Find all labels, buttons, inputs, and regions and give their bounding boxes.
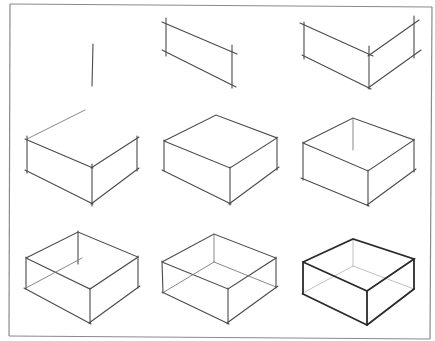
step-9-final-box: [301, 239, 414, 325]
step-4-front-and-top-edge: [25, 110, 139, 206]
step-5-closed-top: [162, 115, 279, 205]
box-drawing-steps-figure: [0, 0, 435, 341]
step-8-full-wireframe: [162, 234, 278, 324]
step-7-hidden-edges-start: [24, 231, 140, 324]
step-3-two-faces: [300, 16, 421, 89]
step-6-back-vertical: [301, 118, 416, 206]
step-1-vertical-line: [92, 44, 93, 86]
step-2-left-face: [162, 18, 237, 88]
